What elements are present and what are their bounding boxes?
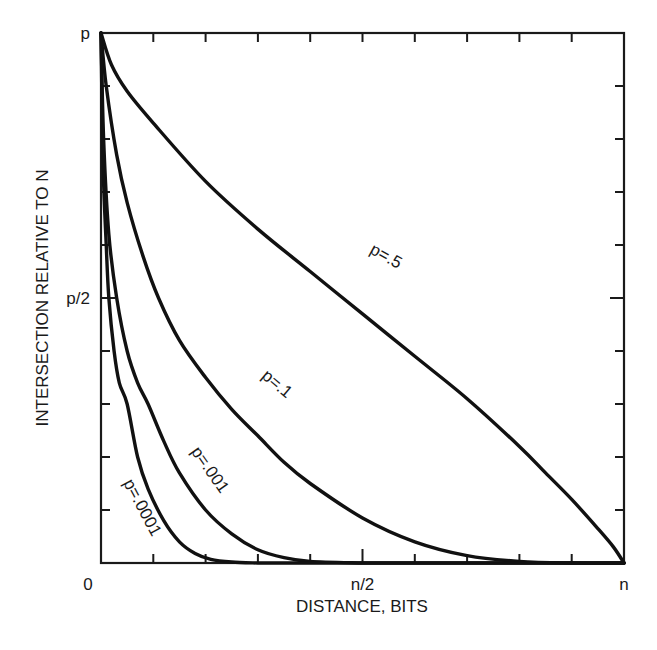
curve-1	[101, 33, 624, 563]
curves	[101, 33, 624, 563]
curve-label: p=.1	[258, 366, 296, 402]
y-axis-label: INTERSECTION RELATIVE TO N	[33, 170, 52, 427]
curve-label: p=.0001	[120, 476, 166, 540]
curve-5	[101, 33, 624, 563]
x-axis-label: DISTANCE, BITS	[296, 597, 428, 616]
curve-label: p=.5	[367, 240, 406, 273]
curve-label: p=.001	[187, 443, 233, 497]
x-tick-label: 0	[83, 575, 92, 594]
x-tick-label: n	[619, 575, 628, 594]
x-tick-label: n/2	[351, 575, 375, 594]
axis-ticks	[101, 33, 624, 563]
curve-0001	[101, 33, 624, 563]
plot-frame	[101, 33, 624, 563]
curve-labels: p=.5p=.1p=.001p=.0001	[120, 240, 406, 540]
curve-001	[101, 33, 624, 563]
y-tick-label: p	[81, 24, 90, 43]
y-tick-label: p/2	[66, 289, 90, 308]
chart: p=.5p=.1p=.001p=.0001 0n/2np/2p DISTANCE…	[0, 0, 657, 650]
